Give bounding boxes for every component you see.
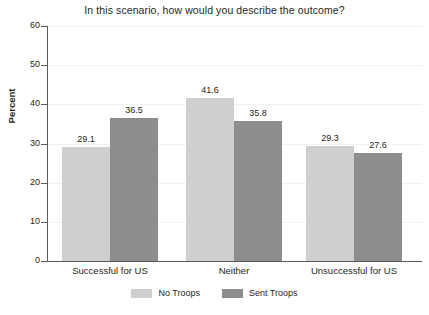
x-axis-tick-label: Unsuccessful for US bbox=[276, 265, 429, 276]
y-tick-label: 60 bbox=[14, 20, 40, 30]
x-axis-line bbox=[41, 261, 422, 262]
bar-value-label: 35.8 bbox=[234, 108, 282, 118]
bar bbox=[234, 121, 282, 261]
y-tick-label: 50 bbox=[14, 59, 40, 69]
y-tick-label: 10 bbox=[14, 216, 40, 226]
y-tick-label: 0 bbox=[14, 255, 40, 265]
y-tick-label: 30 bbox=[14, 138, 40, 148]
bar bbox=[306, 146, 354, 261]
bar-value-label: 29.1 bbox=[62, 134, 110, 144]
bar-value-label: 29.3 bbox=[306, 133, 354, 143]
bar bbox=[110, 118, 158, 261]
bar-chart: In this scenario, how would you describe… bbox=[0, 0, 429, 315]
bar-value-label: 27.6 bbox=[354, 140, 402, 150]
y-tick-label: 20 bbox=[14, 177, 40, 187]
legend-swatch bbox=[222, 289, 243, 298]
legend-label: No Troops bbox=[158, 288, 200, 298]
chart-title: In this scenario, how would you describe… bbox=[0, 4, 429, 16]
legend-swatch bbox=[131, 289, 152, 298]
bar-value-label: 41.6 bbox=[186, 85, 234, 95]
legend-item: No Troops bbox=[131, 288, 200, 298]
bar bbox=[186, 98, 234, 261]
bar bbox=[62, 147, 110, 261]
bar bbox=[354, 153, 402, 261]
chart-legend: No TroopsSent Troops bbox=[0, 288, 429, 298]
bar-value-label: 36.5 bbox=[110, 105, 158, 115]
y-tick-label: 40 bbox=[14, 98, 40, 108]
legend-item: Sent Troops bbox=[222, 288, 298, 298]
plot-area: 29.136.541.635.829.327.6 bbox=[47, 26, 422, 261]
legend-label: Sent Troops bbox=[249, 288, 298, 298]
